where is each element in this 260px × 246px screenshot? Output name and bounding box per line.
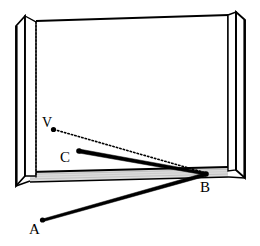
point-marker-c [76,148,82,154]
right-side-panel [228,12,245,178]
left-side-panel [16,16,36,186]
point-label-a: A [29,221,40,237]
point-marker-a [40,217,45,222]
geometry-diagram: V C B A [0,0,260,246]
right-flap-inner-face [228,12,236,171]
point-label-v: V [42,115,52,130]
point-marker-b [203,171,209,177]
figure-root: V C B A [0,0,260,246]
left-flap-inner-face [25,16,36,176]
right-flap-bottom-lip [229,177,245,178]
point-label-b: B [200,179,210,195]
point-label-c: C [60,149,70,165]
